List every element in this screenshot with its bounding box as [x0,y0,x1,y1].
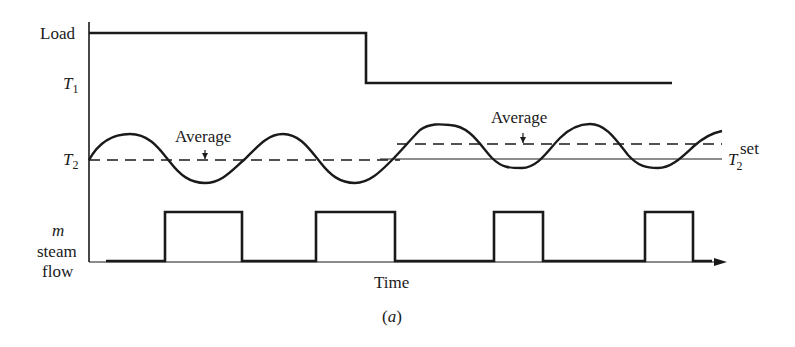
steam-label: steam [37,242,77,261]
flow-label: flow [42,262,74,281]
on-off-control-diagram: Load T1 T2 Average Average T2 set m stea… [0,0,795,347]
average-label-right: Average [491,108,547,127]
t1-label: T1 [63,74,78,96]
right-average-arrowhead-icon [520,137,526,143]
left-average-arrowhead-icon [202,153,208,159]
t2-setpoint-sup: set [740,139,759,158]
steam-flow-pulses [106,212,712,261]
average-label-left: Average [175,127,231,146]
t2-label: T2 [63,150,78,172]
time-axis-arrowhead-icon [714,258,727,266]
load-label: Load [40,24,75,43]
m-label: m [52,221,64,240]
figure-caption: (a) [382,307,402,326]
time-axis-label: Time [374,273,409,292]
load-step-line [89,33,672,83]
